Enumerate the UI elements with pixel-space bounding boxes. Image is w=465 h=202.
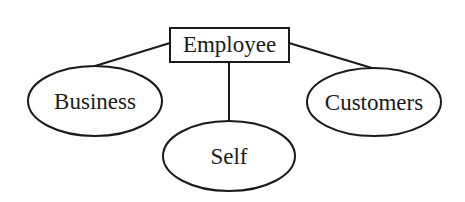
node-self: Self [163, 121, 295, 191]
connector-employee-business [95, 43, 170, 66]
customers-label: Customers [325, 90, 423, 115]
node-customers: Customers [307, 68, 441, 136]
self-label: Self [210, 144, 247, 169]
node-employee: Employee [170, 28, 289, 62]
node-business: Business [28, 66, 162, 136]
diagram-canvas: Employee Business Self Customers [0, 0, 465, 202]
business-label: Business [54, 89, 136, 114]
connector-employee-customers [289, 43, 372, 68]
employee-label: Employee [183, 32, 276, 57]
